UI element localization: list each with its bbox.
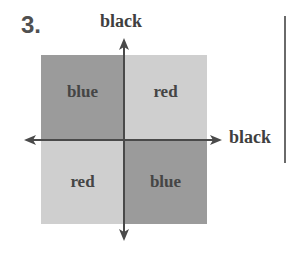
horizontal-axis-label: black (229, 127, 271, 148)
divider-line (284, 16, 286, 163)
vertical-axis-label: black (100, 11, 142, 32)
